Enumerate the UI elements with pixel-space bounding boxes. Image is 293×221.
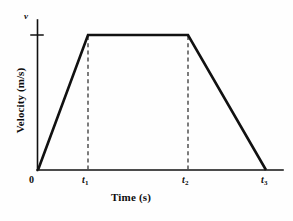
x-tick-t2-subscript: 2 <box>185 179 189 187</box>
plot-area <box>0 0 293 221</box>
x-axis-title: Time (s) <box>111 192 151 203</box>
x-tick-label-t3: t3 <box>261 175 267 187</box>
velocity-time-graph-figure: v Velocity (m/s) 0 t1 t2 t3 Time (s) <box>0 0 293 221</box>
x-tick-label-t1: t1 <box>82 175 88 187</box>
y-axis-symbol-label: v <box>24 12 28 21</box>
x-tick-label-origin: 0 <box>29 175 34 185</box>
x-tick-t3-subscript: 3 <box>264 179 268 187</box>
x-tick-label-t2: t2 <box>182 175 188 187</box>
velocity-curve <box>38 35 266 170</box>
y-axis-title: Velocity (m/s) <box>15 58 26 144</box>
x-tick-t1-subscript: 1 <box>85 179 89 187</box>
